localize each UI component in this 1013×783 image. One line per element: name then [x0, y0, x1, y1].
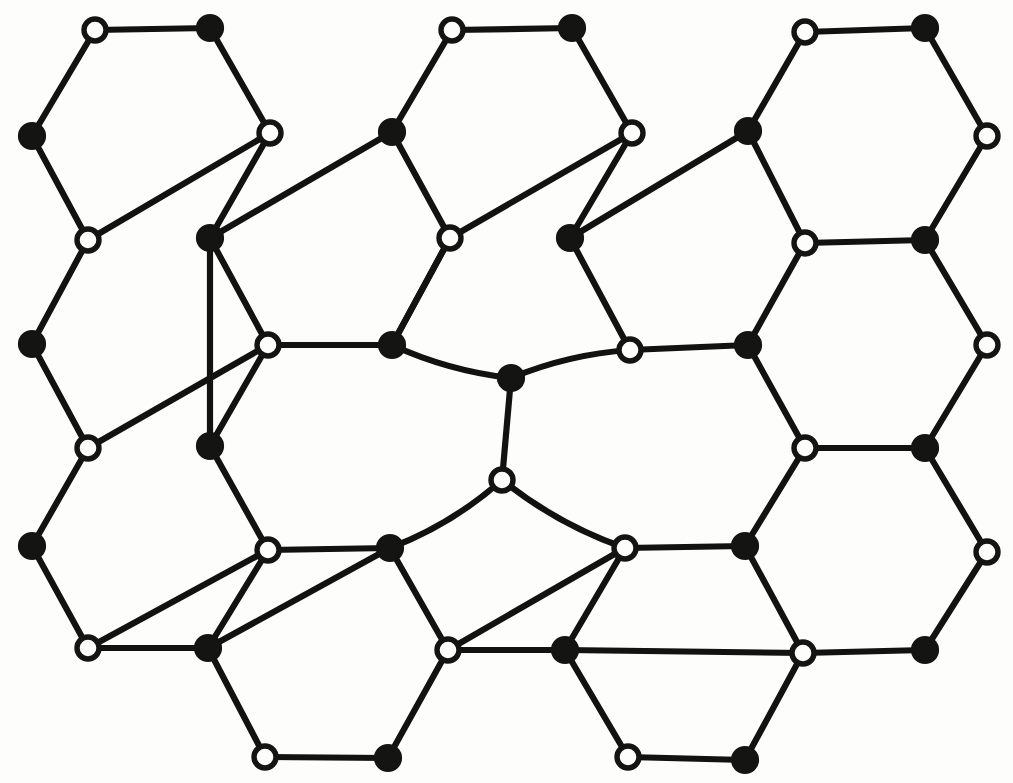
lattice-node-open [77, 229, 99, 251]
lattice-node-filled [912, 435, 938, 461]
lattice-node-filled [735, 118, 761, 144]
lattice-node-open [439, 227, 461, 249]
lattice-node-filled [912, 227, 938, 253]
lattice-node-open [976, 334, 998, 356]
figure-background [0, 0, 1013, 783]
lattice-node-open [257, 539, 279, 561]
lattice-diagram: Honeycomb lattice with central Stone-Wal… [0, 0, 1013, 783]
lattice-node-open [77, 637, 99, 659]
lattice-node-filled [732, 533, 758, 559]
lattice-node-open [84, 19, 106, 41]
lattice-node-open [792, 642, 814, 664]
lattice-node-open [794, 21, 816, 43]
lattice-bond [268, 548, 390, 550]
lattice-node-open [619, 339, 641, 361]
lattice-node-filled [732, 747, 758, 773]
lattice-node-filled [559, 15, 585, 41]
lattice-node-filled [197, 433, 223, 459]
lattice-node-open [77, 437, 99, 459]
lattice-node-open [257, 334, 279, 356]
lattice-node-open [254, 746, 276, 768]
lattice-node-open [794, 232, 816, 254]
lattice-node-open [491, 469, 513, 491]
lattice-node-open [614, 537, 636, 559]
lattice-node-open [621, 122, 643, 144]
lattice-node-filled [377, 535, 403, 561]
lattice-bond [265, 757, 388, 758]
lattice-bond [628, 757, 745, 760]
lattice-node-filled [557, 225, 583, 251]
lattice-bond [625, 546, 745, 548]
lattice-node-filled [552, 637, 578, 663]
lattice-node-open [441, 19, 463, 41]
lattice-bond [565, 650, 803, 653]
lattice-node-filled [379, 119, 405, 145]
lattice-node-filled [735, 332, 761, 358]
lattice-node-open [976, 541, 998, 563]
lattice-bond [805, 240, 925, 243]
lattice-node-open [437, 639, 459, 661]
lattice-node-filled [195, 635, 221, 661]
lattice-node-filled [498, 365, 524, 391]
lattice-node-filled [375, 745, 401, 771]
lattice-node-filled [197, 225, 223, 251]
lattice-bond [803, 650, 925, 653]
lattice-node-filled [912, 637, 938, 663]
lattice-node-filled [19, 123, 45, 149]
lattice-node-filled [912, 15, 938, 41]
lattice-node-open [617, 746, 639, 768]
lattice-bond [95, 28, 210, 30]
lattice-node-filled [379, 332, 405, 358]
lattice-bond [452, 28, 572, 30]
lattice-node-open [976, 125, 998, 147]
lattice-bond [805, 28, 925, 32]
lattice-node-open [259, 122, 281, 144]
figure-root: Honeycomb lattice with central Stone-Wal… [0, 0, 1013, 783]
lattice-node-filled [19, 331, 45, 357]
lattice-node-filled [19, 533, 45, 559]
lattice-node-filled [197, 15, 223, 41]
lattice-node-open [794, 437, 816, 459]
